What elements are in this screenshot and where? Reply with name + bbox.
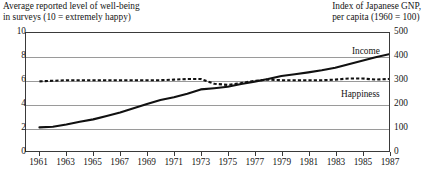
x-axis-tick-mark xyxy=(66,152,67,156)
x-axis-tick-mark xyxy=(390,152,391,156)
left-axis-tick-label: 10 xyxy=(0,27,26,36)
left-axis-tick-label: 0 xyxy=(0,147,26,156)
x-axis-tick-mark xyxy=(147,152,148,156)
right-axis-title: Index of Japanese GNP, per capita (1960 … xyxy=(332,1,421,23)
x-axis-tick-label: 1979 xyxy=(262,158,302,167)
left-axis-tick-label: 4 xyxy=(0,99,26,108)
series-line-happiness xyxy=(39,78,389,84)
left-axis-title-line-1: Average reported level of well-being xyxy=(3,1,140,12)
right-axis-tick-label: 400 xyxy=(394,51,423,60)
series-line-income xyxy=(39,54,389,127)
chart-figure: Average reported level of well-being in … xyxy=(0,0,423,188)
left-axis-tick-label: 8 xyxy=(0,51,26,60)
x-axis-tick-mark xyxy=(363,152,364,156)
left-axis-tick-label: 2 xyxy=(0,123,26,132)
x-axis-tick-label: 1971 xyxy=(154,158,194,167)
right-axis-tick-label: 300 xyxy=(394,75,423,84)
x-axis-tick-label: 1967 xyxy=(100,158,140,167)
left-axis-title: Average reported level of well-being in … xyxy=(3,1,140,23)
x-axis-tick-mark xyxy=(309,152,310,156)
x-axis-tick-label: 1985 xyxy=(343,158,383,167)
x-axis-tick-label: 1963 xyxy=(46,158,86,167)
x-axis-tick-mark xyxy=(39,152,40,156)
x-axis-tick-mark xyxy=(282,152,283,156)
right-axis-title-line-2: per capita (1960 = 100) xyxy=(332,12,421,23)
left-axis-title-line-2: in surveys (10 = extremely happy) xyxy=(3,12,140,23)
series-label-happiness: Happiness xyxy=(341,90,380,99)
x-axis-tick-mark xyxy=(93,152,94,156)
right-axis-tick-label: 0 xyxy=(394,147,423,156)
x-axis-tick-label: 1965 xyxy=(73,158,113,167)
x-axis-tick-label: 1977 xyxy=(235,158,275,167)
x-axis-tick-label: 1987 xyxy=(370,158,410,167)
series-label-income: Income xyxy=(352,47,380,56)
x-axis-tick-mark xyxy=(228,152,229,156)
right-axis-tick-label: 500 xyxy=(394,27,423,36)
x-axis-tick-label: 1969 xyxy=(127,158,167,167)
right-axis-title-line-1: Index of Japanese GNP, xyxy=(332,1,421,12)
x-axis-tick-label: 1975 xyxy=(208,158,248,167)
x-axis-tick-label: 1973 xyxy=(181,158,221,167)
x-axis-tick-label: 1983 xyxy=(316,158,356,167)
left-axis-tick-label: 6 xyxy=(0,75,26,84)
right-axis-tick-label: 100 xyxy=(394,123,423,132)
x-axis-tick-mark xyxy=(120,152,121,156)
x-axis-tick-mark xyxy=(336,152,337,156)
plot-area xyxy=(25,32,390,152)
series-layer xyxy=(26,33,389,151)
x-axis-tick-mark xyxy=(201,152,202,156)
x-axis-tick-label: 1981 xyxy=(289,158,329,167)
x-axis-tick-label: 1961 xyxy=(19,158,59,167)
x-axis-tick-mark xyxy=(255,152,256,156)
series-svg xyxy=(26,33,389,151)
x-axis-tick-mark xyxy=(174,152,175,156)
right-axis-tick-label: 200 xyxy=(394,99,423,108)
